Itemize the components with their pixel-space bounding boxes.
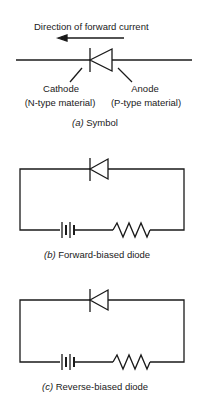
cathode-label: Cathode — [26, 84, 96, 94]
direction-arrow-icon — [58, 35, 124, 41]
diode-symbol-icon — [16, 48, 192, 72]
diode-diagram — [0, 0, 206, 397]
caption-c: (c) Reverse-biased diode — [42, 382, 148, 392]
anode-material: (P-type material) — [96, 98, 196, 108]
cathode-material: (N-type material) — [10, 98, 110, 108]
caption-c-letter: (c) — [42, 381, 53, 392]
caption-a: (a) Symbol — [72, 118, 118, 128]
anode-pointer — [118, 68, 132, 82]
cathode-pointer — [70, 68, 82, 82]
direction-label: Direction of forward current — [34, 22, 149, 32]
forward-circuit — [20, 158, 184, 238]
caption-b-text: Forward-biased diode — [58, 249, 150, 260]
anode-label: Anode — [110, 84, 180, 94]
caption-a-letter: (a) — [72, 117, 84, 128]
caption-c-text: Reverse-biased diode — [56, 381, 148, 392]
caption-a-text: Symbol — [86, 117, 118, 128]
reverse-circuit — [20, 289, 184, 370]
caption-b: (b) Forward-biased diode — [44, 250, 150, 260]
caption-b-letter: (b) — [44, 249, 56, 260]
